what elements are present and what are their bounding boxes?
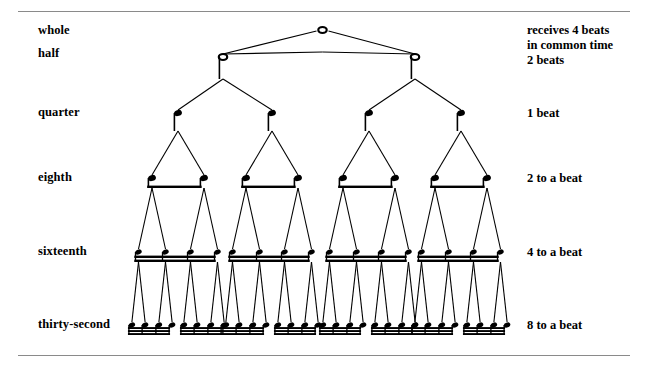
tree-branch [422,188,436,249]
tree-branch [152,188,166,249]
tree-branch [357,262,364,322]
note-beam [325,256,406,258]
tree-branch [278,262,285,322]
note-beam [274,333,316,335]
tree-branch [395,188,409,249]
tree-branch [442,262,449,322]
note-beam [463,333,505,335]
tree-branch [285,262,292,322]
note-beam [134,260,215,262]
tree-branch [369,131,395,175]
note-beam [128,330,170,332]
note-beam [222,333,264,335]
tree-branch [191,262,198,322]
tree-branch [253,262,260,322]
note-tree-svg [0,0,649,372]
tree-branch [305,262,312,322]
tree-branch [474,262,481,322]
tree-branch [178,79,223,110]
note-beam [147,186,201,188]
note-beam [274,330,316,332]
tree-branch [178,131,204,175]
tree-branch [330,262,337,322]
tree-branch [409,262,416,322]
note-beam [411,327,453,329]
tree-branch [223,31,317,54]
note-beam [371,330,413,332]
tree-branch [402,262,409,322]
tree-branch [132,262,139,322]
tree-branch [501,262,508,322]
note-beam [228,260,309,262]
note-stems [129,57,504,335]
tree-branch [323,262,330,322]
tree-branch [422,262,429,322]
tree-branch [218,262,225,322]
tree-branch [435,131,461,175]
note-beam [338,186,392,188]
tree-branch [449,262,456,322]
note-beam [134,256,215,258]
tree-branch [166,262,173,322]
tree-branch [329,31,416,54]
tree-branch [415,79,461,110]
note-beam [319,330,361,332]
whole-notehead [318,27,326,33]
tree-branch [246,131,272,175]
note-beam [222,330,264,332]
tree-branch [223,52,323,54]
tree-branch [152,131,178,175]
note-beam [241,186,295,188]
tree-connectors [132,31,507,322]
tree-branch [159,262,166,322]
note-beam [180,330,222,332]
tree-branch [323,52,416,54]
tree-branch [139,188,153,249]
note-beam [128,333,170,335]
tree-branch [350,262,357,322]
note-tree-canvas [0,0,649,372]
note-beam [411,333,453,335]
tree-branch [233,262,240,322]
tree-branch [494,262,501,322]
note-beam [325,260,406,262]
tree-branch [272,131,298,175]
note-beam [417,256,498,258]
tree-branch [369,79,415,110]
tree-branch [343,131,369,175]
note-beam [319,333,361,335]
tree-branch [382,188,396,249]
note-beam [180,327,222,329]
tree-branch [191,188,205,249]
tree-branch [375,262,382,322]
tree-branch [467,262,474,322]
note-beam [180,333,222,335]
tree-branch [223,79,272,110]
note-beam [371,333,413,335]
tree-branch [184,262,191,322]
tree-branch [312,262,319,322]
tree-branch [285,188,299,249]
tree-branch [139,262,146,322]
tree-branch [298,188,312,249]
tree-branch [474,188,488,249]
tree-branch [246,188,260,249]
note-beam [222,327,264,329]
tree-branch [226,262,233,322]
note-beam [463,330,505,332]
tree-branch [415,262,422,322]
tree-branch [204,188,218,249]
tree-branch [211,262,218,322]
tree-branch [382,262,389,322]
tree-branch [343,188,357,249]
figure-root: whole half quarter eighth sixteenth thir… [0,0,649,372]
tree-branch [487,188,501,249]
tree-branch [233,188,247,249]
tree-branch [461,131,487,175]
note-beam [128,327,170,329]
note-beam [371,327,413,329]
note-beam [274,327,316,329]
tree-branch [435,188,449,249]
note-beam [430,186,484,188]
note-beam [417,260,498,262]
